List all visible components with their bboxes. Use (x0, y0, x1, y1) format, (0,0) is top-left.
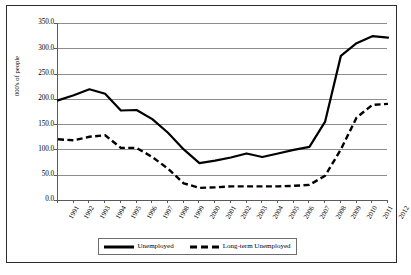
y-axis-tick-mark (54, 23, 57, 24)
legend-item-unemployed: Unemployed (104, 243, 173, 251)
x-axis-tick-mark (88, 200, 89, 203)
series-line-unemployed (58, 36, 388, 163)
y-axis-tick-mark (54, 175, 57, 176)
plot-area (57, 23, 387, 200)
x-axis-tick-mark (230, 200, 231, 203)
x-axis-tick-mark (214, 200, 215, 203)
y-axis-tick-mark (54, 48, 57, 49)
y-axis-tick-mark (54, 149, 57, 150)
x-axis-tick-mark (198, 200, 199, 203)
x-axis-tick-mark (120, 200, 121, 203)
legend-swatch-solid (104, 243, 134, 251)
x-axis-tick-mark (104, 200, 105, 203)
y-axis-tick-label: 150.0 (10, 121, 54, 128)
x-axis-tick-mark (167, 200, 168, 203)
y-axis-tick-mark (54, 74, 57, 75)
x-axis-tick-mark (356, 200, 357, 203)
y-axis-tick-label: 100.0 (10, 146, 54, 153)
legend-label-unemployed: Unemployed (137, 243, 173, 250)
x-axis-tick-mark (371, 200, 372, 203)
y-axis-tick-mark (54, 99, 57, 100)
y-axis-tick-mark (54, 124, 57, 125)
series-layer (58, 23, 388, 200)
x-axis-tick-mark (183, 200, 184, 203)
x-axis-tick-mark (246, 200, 247, 203)
y-axis-tick-label: 50.0 (10, 171, 54, 178)
y-axis-tick-label: 200.0 (10, 95, 54, 102)
x-axis-tick-mark (387, 200, 388, 203)
y-axis-tick-label: 250.0 (10, 70, 54, 77)
x-axis-tick-mark (57, 200, 58, 203)
legend-swatch-dashed (190, 243, 220, 251)
legend-label-long-term-unemployed: Long-term Unemployed (223, 243, 291, 250)
x-axis-tick-mark (293, 200, 294, 203)
x-axis-line (57, 200, 388, 201)
y-axis-tick-label: 350.0 (10, 19, 54, 26)
x-axis-tick-mark (136, 200, 137, 203)
x-axis-tick-mark (261, 200, 262, 203)
x-axis-tick-mark (340, 200, 341, 203)
x-axis-tick-label: 2012 (398, 205, 411, 221)
y-axis-tick-label: 300.0 (10, 45, 54, 52)
x-axis-tick-mark (151, 200, 152, 203)
series-line-long-term-unemployed (58, 104, 388, 188)
x-axis-tick-mark (277, 200, 278, 203)
x-axis-tick-mark (308, 200, 309, 203)
legend-item-long-term-unemployed: Long-term Unemployed (190, 243, 291, 251)
x-axis-tick-mark (73, 200, 74, 203)
x-axis-tick-mark (324, 200, 325, 203)
y-axis-tick-label: 0.0 (10, 196, 54, 203)
chart-legend: Unemployed Long-term Unemployed (98, 238, 297, 255)
